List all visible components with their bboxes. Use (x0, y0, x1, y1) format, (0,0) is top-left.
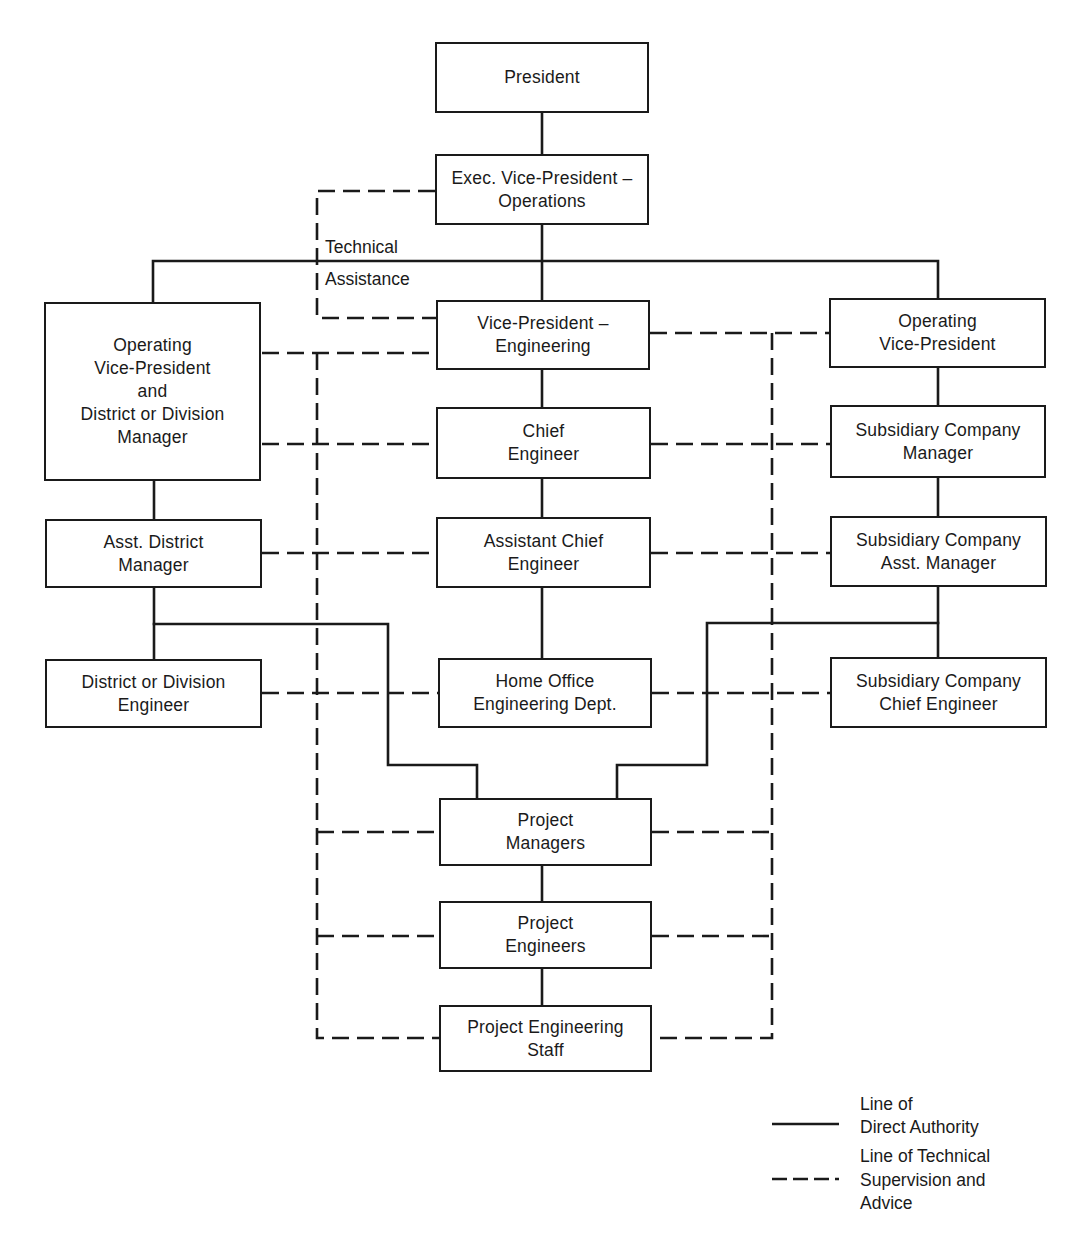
box-label: and (138, 380, 168, 403)
box-label: Project Engineering (467, 1016, 624, 1039)
box-label: Manager (118, 554, 188, 577)
technical-assistance-label-line2: Assistance (325, 268, 410, 291)
legend-technical-supervision-line2: Supervision and (860, 1168, 986, 1192)
box-label: Engineer (508, 553, 580, 576)
box-chief-engineer: Chief Engineer (436, 407, 651, 479)
box-label: Asst. Manager (881, 552, 996, 575)
box-label: Vice-President (879, 333, 995, 356)
box-label: Subsidiary Company (856, 529, 1021, 552)
box-label: President (504, 66, 580, 89)
box-label: Engineering (495, 335, 591, 358)
box-home-office-engineering: Home Office Engineering Dept. (438, 658, 652, 728)
box-label: Engineer (508, 443, 580, 466)
box-assistant-chief-engineer: Assistant Chief Engineer (436, 517, 651, 588)
legend-swatches (772, 1124, 839, 1179)
box-operating-vp-district-manager: Operating Vice-President and District or… (44, 302, 261, 481)
box-label: Subsidiary Company (855, 419, 1020, 442)
box-project-engineering-staff: Project Engineering Staff (439, 1005, 652, 1072)
box-label: Operations (498, 190, 586, 213)
box-label: Asst. District (103, 531, 203, 554)
legend-technical-supervision-line1: Line of Technical (860, 1144, 990, 1168)
legend-direct-authority-line2: Direct Authority (860, 1115, 979, 1139)
box-label: Staff (527, 1039, 564, 1062)
legend-direct-authority-line1: Line of (860, 1092, 913, 1116)
box-district-division-engineer: District or Division Engineer (45, 659, 262, 728)
box-vp-engineering: Vice-President – Engineering (436, 300, 650, 370)
box-label: Manager (903, 442, 973, 465)
box-project-managers: Project Managers (439, 798, 652, 866)
box-label: Exec. Vice-President – (451, 167, 632, 190)
box-subsidiary-company-asst-manager: Subsidiary Company Asst. Manager (830, 516, 1047, 587)
box-label: Operating (113, 334, 192, 357)
box-label: Home Office (495, 670, 594, 693)
box-operating-vp: Operating Vice-President (829, 298, 1046, 368)
box-subsidiary-company-chief-engineer: Subsidiary Company Chief Engineer (830, 657, 1047, 728)
legend-technical-supervision-line3: Advice (860, 1191, 913, 1215)
box-label: District or Division (80, 403, 224, 426)
box-label: Operating (898, 310, 977, 333)
box-subsidiary-company-manager: Subsidiary Company Manager (830, 405, 1046, 478)
technical-assistance-label-line1: Technical (325, 236, 398, 259)
box-label: Assistant Chief (484, 530, 604, 553)
box-exec-vp-operations: Exec. Vice-President – Operations (435, 154, 649, 225)
box-label: Managers (506, 832, 585, 855)
box-label: Engineer (118, 694, 190, 717)
box-label: Project (518, 809, 574, 832)
box-label: District or Division (81, 671, 225, 694)
box-label: Engineering Dept. (473, 693, 617, 716)
box-label: Engineers (505, 935, 586, 958)
box-project-engineers: Project Engineers (439, 901, 652, 969)
box-label: Vice-President – (477, 312, 608, 335)
box-label: Project (518, 912, 574, 935)
box-label: Chief Engineer (879, 693, 998, 716)
box-label: Subsidiary Company (856, 670, 1021, 693)
box-label: Manager (117, 426, 187, 449)
org-chart: President Exec. Vice-President – Operati… (0, 0, 1082, 1239)
box-president: President (435, 42, 649, 113)
box-label: Chief (523, 420, 565, 443)
box-label: Vice-President (94, 357, 210, 380)
box-asst-district-manager: Asst. District Manager (45, 519, 262, 588)
